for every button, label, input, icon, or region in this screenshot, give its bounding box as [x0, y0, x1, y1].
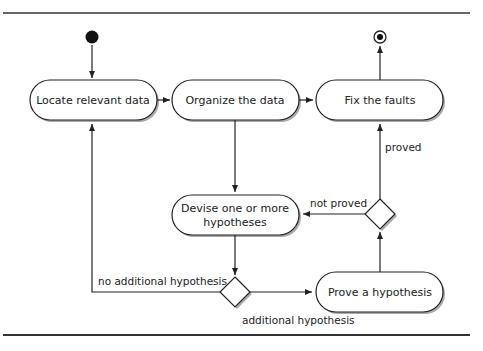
decision-proved: [365, 199, 397, 231]
fix-label: Fix the faults: [345, 94, 416, 107]
activity-diagram: Locate relevant data Organize the data F…: [0, 0, 483, 351]
activity-fix-the-faults: Fix the faults: [316, 80, 445, 122]
organize-label: Organize the data: [185, 94, 284, 107]
final-node: [374, 31, 386, 43]
edge-label-not-proved: not proved: [310, 197, 367, 209]
edge-label-proved: proved: [385, 141, 422, 153]
activity-organize-the-data: Organize the data: [172, 80, 301, 122]
prove-label: Prove a hypothesis: [328, 286, 432, 299]
locate-label: Locate relevant data: [36, 94, 150, 107]
initial-node: [86, 31, 99, 44]
edge-label-no-additional: no additional hypothesis: [98, 275, 227, 287]
activity-prove-hypothesis: Prove a hypothesis: [316, 272, 445, 314]
devise-label-line1: Devise one or more: [181, 202, 289, 215]
edge-label-additional: additional hypothesis: [242, 314, 355, 326]
activity-locate-relevant-data: Locate relevant data: [30, 80, 159, 122]
devise-label-line2: hypotheses: [203, 216, 267, 229]
activity-devise-hypotheses: Devise one or more hypotheses: [172, 195, 301, 237]
